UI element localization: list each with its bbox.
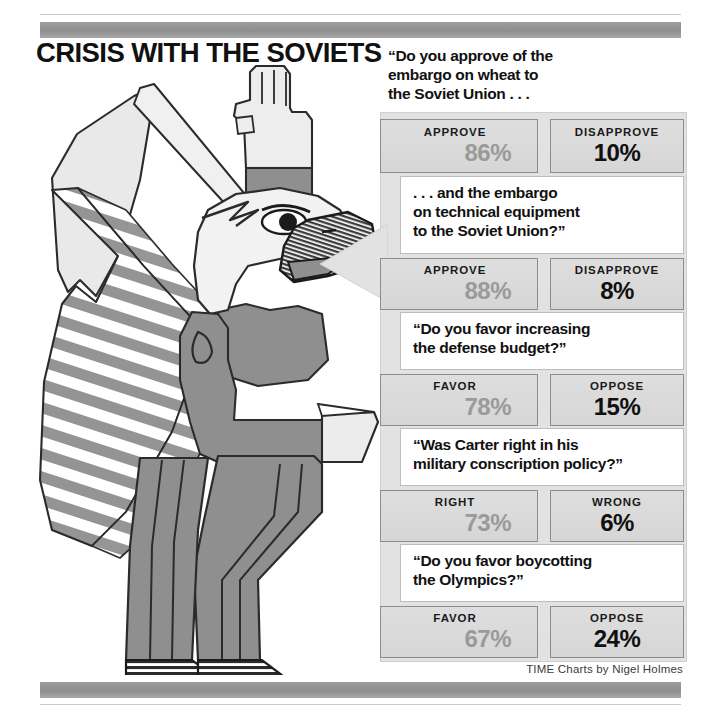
q3-right-label: OPPOSE	[590, 381, 644, 393]
q3-left-cell: FAVOR 78%	[380, 374, 538, 426]
q5-right-label: OPPOSE	[590, 613, 644, 625]
q4-left-value: 73%	[464, 511, 511, 535]
q2-right-value: 8%	[600, 279, 634, 303]
q1-left-value: 86%	[464, 141, 511, 165]
q2-left-cell: APPROVE 88%	[380, 258, 538, 310]
q3-left-value: 78%	[464, 395, 511, 419]
q3-right-cell: OPPOSE 15%	[550, 374, 684, 426]
speech-bubble-tail	[318, 220, 388, 306]
question-2-line-1: . . . and the embargo	[413, 184, 673, 203]
q5-right-value: 24%	[594, 627, 641, 651]
q4-right-cell: WRONG 6%	[550, 490, 684, 542]
q1-right-value: 10%	[594, 141, 641, 165]
chart-credit: TIME Charts by Nigel Holmes	[526, 663, 683, 675]
q4-left-cell: RIGHT 73%	[380, 490, 538, 542]
q3-left-label: FAVOR	[433, 381, 476, 393]
q3-right-value: 15%	[594, 395, 641, 419]
q5-left-value: 67%	[464, 627, 511, 651]
question-1-line-3: the Soviet Union . . .	[388, 85, 674, 104]
question-1-line-1: “Do you approve of the	[388, 47, 674, 66]
bottom-hairline	[40, 704, 681, 705]
question-3-line-2: the defense budget?”	[413, 339, 673, 358]
q1-left-cell: APPROVE 86%	[380, 119, 538, 173]
question-2-line-2: on technical equipment	[413, 203, 673, 222]
hatched-boots	[126, 660, 304, 675]
q5-right-cell: OPPOSE 24%	[550, 606, 684, 658]
infographic-page: CRISIS WITH THE SOVIETS	[0, 0, 721, 714]
question-1-line-2: embargo on wheat to	[388, 66, 674, 85]
q2-right-cell: DISAPPROVE 8%	[550, 258, 684, 310]
q5-left-label: FAVOR	[433, 613, 476, 625]
striped-trousers	[126, 456, 322, 660]
q2-left-value: 88%	[464, 279, 511, 303]
poll-column: “Do you approve of the embargo on wheat …	[380, 40, 685, 660]
question-5-line-2: the Olympics?”	[413, 571, 673, 590]
question-2-line-3: to the Soviet Union?”	[413, 222, 673, 241]
bottom-rule-bar	[40, 682, 681, 698]
uncle-sam-eagle-illustration	[22, 60, 382, 675]
q2-right-label: DISAPPROVE	[575, 265, 659, 277]
question-1-box: “Do you approve of the embargo on wheat …	[384, 40, 684, 111]
q4-left-label: RIGHT	[435, 497, 475, 509]
question-2-box: . . . and the embargo on technical equip…	[400, 176, 684, 254]
q4-right-value: 6%	[600, 511, 634, 535]
question-4-line-1: “Was Carter right in his	[413, 436, 673, 455]
question-4-box: “Was Carter right in his military conscr…	[400, 428, 684, 486]
q2-left-label: APPROVE	[424, 265, 487, 277]
question-3-line-1: “Do you favor increasing	[413, 320, 673, 339]
q1-right-cell: DISAPPROVE 10%	[550, 119, 684, 173]
question-3-box: “Do you favor increasing the defense bud…	[400, 312, 684, 370]
question-5-box: “Do you favor boycotting the Olympics?”	[400, 544, 684, 602]
top-rule-bar	[40, 22, 681, 38]
question-4-line-2: military conscription policy?”	[413, 455, 673, 474]
q4-right-label: WRONG	[592, 497, 642, 509]
q1-left-label: APPROVE	[424, 127, 487, 139]
question-5-line-1: “Do you favor boycotting	[413, 552, 673, 571]
top-hairline	[40, 14, 681, 15]
q5-left-cell: FAVOR 67%	[380, 606, 538, 658]
q1-right-label: DISAPPROVE	[575, 127, 659, 139]
